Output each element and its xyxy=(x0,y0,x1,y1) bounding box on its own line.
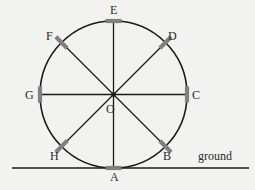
point-label-D: D xyxy=(168,30,177,42)
center-point-label: O xyxy=(106,103,115,115)
point-label-F: F xyxy=(46,30,53,42)
tick-mark-E xyxy=(106,19,122,23)
center-point-dot xyxy=(111,92,115,96)
ground-label: ground xyxy=(198,150,232,162)
point-label-H: H xyxy=(50,150,59,162)
point-label-A: A xyxy=(110,171,119,183)
tick-mark-C xyxy=(185,87,189,103)
point-label-B: B xyxy=(163,150,171,162)
tick-mark-G xyxy=(38,87,42,103)
point-label-E: E xyxy=(110,4,117,16)
point-label-C: C xyxy=(192,89,200,101)
point-label-G: G xyxy=(25,89,34,101)
diagram-canvas: ABCDEFGH ground O xyxy=(0,0,255,190)
